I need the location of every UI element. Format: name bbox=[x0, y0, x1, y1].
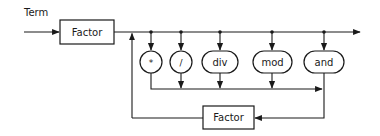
return-path bbox=[255, 73, 324, 118]
operator-multiply: * bbox=[140, 51, 162, 73]
factor-bottom-label: Factor bbox=[213, 112, 244, 123]
factor-box-top: Factor bbox=[60, 20, 114, 44]
operator-div: div bbox=[202, 51, 238, 73]
term-syntax-diagram: Term Factor * / div mod bbox=[0, 0, 380, 136]
operator-multiply-label: * bbox=[149, 58, 154, 68]
operator-and-label: and bbox=[315, 57, 334, 68]
collector-line bbox=[151, 73, 322, 89]
factor-top-label: Factor bbox=[72, 27, 103, 38]
operator-div-label: div bbox=[212, 57, 227, 68]
operator-mod: mod bbox=[253, 51, 292, 73]
diagram-title: Term bbox=[23, 7, 48, 18]
operator-slash: / bbox=[170, 51, 192, 73]
operator-and: and bbox=[304, 51, 344, 73]
operator-mod-label: mod bbox=[261, 57, 283, 68]
factor-box-bottom: Factor bbox=[203, 106, 254, 129]
